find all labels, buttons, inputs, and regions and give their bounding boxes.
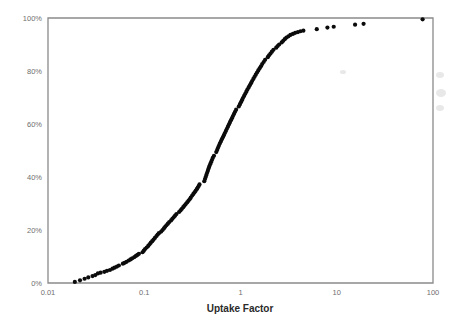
data-point [325, 25, 329, 29]
y-tick-label: 0% [31, 279, 42, 288]
y-tick-label: 20% [27, 226, 42, 235]
y-tick-label: 80% [27, 67, 42, 76]
y-tick-label: 60% [27, 120, 42, 129]
data-point [353, 23, 357, 27]
data-point [117, 263, 121, 267]
y-tick-label: 40% [27, 173, 42, 182]
data-point [197, 182, 201, 186]
data-point [234, 108, 238, 112]
x-axis-tick-labels: 0.010.1110100 [41, 288, 440, 297]
x-tick-label: 0.01 [41, 288, 56, 297]
scan-artifact-marks [340, 70, 446, 111]
x-tick-label: 10 [333, 288, 341, 297]
data-point [421, 17, 425, 21]
data-point [137, 252, 141, 256]
cumulative-distribution-chart: 0%20%40%60%80%100% 0.010.1110100 Uptake … [0, 0, 455, 324]
x-axis-title: Uptake Factor [207, 303, 274, 314]
x-tick-label: 0.1 [139, 288, 149, 297]
chart-figure: 0%20%40%60%80%100% 0.010.1110100 Uptake … [0, 0, 455, 324]
data-point [73, 280, 77, 284]
y-tick-label: 100% [23, 14, 43, 23]
data-point [332, 25, 336, 29]
x-tick-label: 1 [238, 288, 242, 297]
data-point [99, 271, 103, 275]
plot-frame [48, 18, 433, 283]
x-tick-label: 100 [427, 288, 440, 297]
data-point [212, 154, 216, 158]
data-point [86, 275, 90, 279]
data-point [301, 29, 305, 33]
data-point [361, 22, 365, 26]
y-axis-tick-labels: 0%20%40%60%80%100% [23, 14, 43, 288]
data-point [315, 27, 319, 31]
data-point-series [73, 17, 425, 284]
axis-frame-path [48, 18, 433, 283]
data-point [83, 277, 87, 281]
data-point [78, 278, 82, 282]
